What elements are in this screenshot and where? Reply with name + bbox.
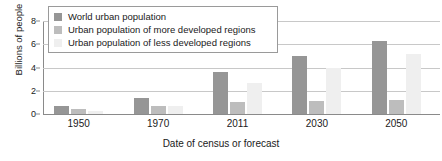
legend-label: Urban population of less developed regio… — [68, 37, 251, 48]
chart-legend: World urban population Urban population … — [48, 6, 278, 53]
y-tick-mark — [36, 67, 40, 68]
legend-swatch-more-developed-regions — [54, 26, 62, 34]
legend-label: World urban population — [68, 11, 166, 22]
legend-item: World urban population — [54, 10, 272, 23]
bar — [389, 100, 404, 114]
bar-group — [292, 21, 341, 114]
bar — [326, 68, 341, 115]
legend-item: Urban population of less developed regio… — [54, 36, 272, 49]
y-axis-ticks: 02468 — [0, 21, 40, 114]
bar — [213, 72, 228, 114]
x-tick-label: 1950 — [49, 118, 109, 129]
bar-group — [372, 21, 421, 114]
x-tick-label: 1970 — [128, 118, 188, 129]
legend-item: Urban population of more developed regio… — [54, 23, 272, 36]
y-tick-mark — [36, 114, 40, 115]
bar — [309, 101, 324, 114]
y-tick-mark — [36, 44, 40, 45]
bar — [406, 54, 421, 114]
y-tick-mark — [36, 21, 40, 22]
bar — [88, 111, 103, 114]
x-tick-label: 2050 — [366, 118, 426, 129]
bar — [372, 41, 387, 114]
legend-swatch-world-urban-population — [54, 13, 62, 21]
x-tick-label: 2011 — [208, 118, 268, 129]
bar — [134, 98, 149, 114]
bar-chart: Billions of people 02468 195019702011203… — [0, 0, 442, 161]
bar — [292, 56, 307, 114]
bar — [151, 106, 166, 114]
bar — [230, 102, 245, 114]
legend-label: Urban population of more developed regio… — [68, 24, 256, 35]
y-tick-mark — [36, 90, 40, 91]
x-tick-label: 2030 — [287, 118, 347, 129]
bar — [168, 106, 183, 114]
x-axis-title: Date of census or forecast — [0, 138, 442, 149]
bar — [71, 109, 86, 114]
bar — [247, 83, 262, 114]
axis-baseline — [43, 114, 440, 115]
bar — [54, 106, 69, 114]
legend-swatch-less-developed-regions — [54, 39, 62, 47]
